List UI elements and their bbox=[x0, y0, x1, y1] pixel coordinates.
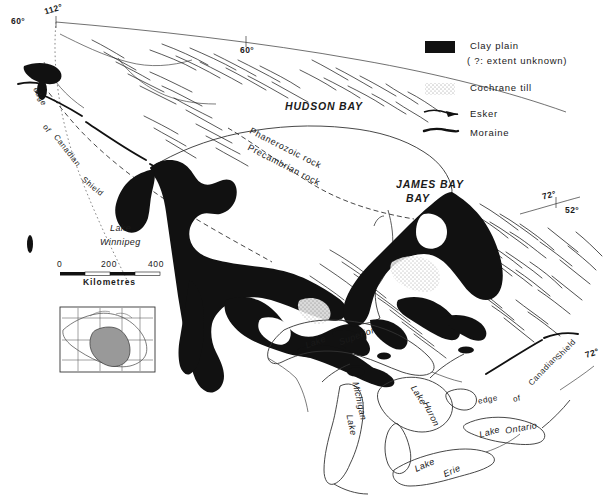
coordinate-label-60n-west: 60° bbox=[11, 16, 25, 26]
esker-swarm-northeast bbox=[300, 60, 440, 122]
scale-bar-title: Kilometres bbox=[83, 277, 136, 287]
coordinate-label-60n-east: 60° bbox=[240, 45, 254, 55]
scale-tick-200: 200 bbox=[101, 259, 117, 269]
water-label-hudson-bay: HUDSON BAY bbox=[285, 100, 363, 112]
glacial-geology-map-figure: 112° 60° 60° 72° 52° 72° HUDSON BAY JAME… bbox=[0, 0, 610, 501]
legend-label-clay-plain: Clay plain bbox=[470, 40, 519, 51]
legend-symbols bbox=[424, 41, 458, 131]
scale-tick-0: 0 bbox=[57, 259, 62, 269]
water-label-james: JAMES BAY bbox=[396, 178, 464, 190]
legend-esker-tip bbox=[446, 111, 458, 117]
water-label-lake-winnipeg-line1: Lake bbox=[110, 223, 131, 233]
scale-tick-400: 400 bbox=[148, 259, 164, 269]
scale-bar-graphic bbox=[60, 272, 160, 276]
water-label-lake-winnipeg-line2: Winnipeg bbox=[100, 237, 141, 247]
james-bay-inlet bbox=[374, 216, 384, 226]
legend-sublabel-extent-unknown: ( ?: extent unknown) bbox=[467, 55, 567, 66]
legend-cochrane-till-swatch bbox=[425, 83, 455, 95]
legend-label-moraine: Moraine bbox=[470, 127, 509, 138]
water-label-bay: BAY bbox=[406, 192, 430, 204]
graticule-60-north bbox=[56, 22, 566, 112]
shield-edge-label-of-east: of bbox=[512, 393, 521, 403]
coordinate-label-52n: 52° bbox=[565, 205, 579, 215]
northwest-outlines bbox=[44, 34, 216, 108]
legend-label-cochrane-till: Cochrane till bbox=[470, 82, 532, 93]
legend-label-esker: Esker bbox=[470, 108, 498, 119]
inset-locator-map bbox=[60, 307, 155, 372]
phanerozoic-precambrian-contact bbox=[228, 128, 414, 219]
legend-moraine-symbol bbox=[424, 129, 458, 132]
legend-clay-plain-swatch bbox=[425, 41, 455, 53]
